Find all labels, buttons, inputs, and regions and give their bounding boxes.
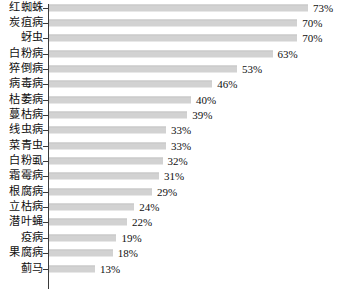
bar-value-label: 13% [100, 263, 120, 274]
bar [49, 35, 297, 42]
bar-and-value: 70% [49, 20, 323, 27]
bar-row: 蓟马13% [0, 261, 353, 276]
category-label: 白粉虱 [0, 155, 43, 167]
bar-row: 果腐病18% [0, 246, 353, 261]
axis-tick [43, 238, 48, 239]
bar-value-label: 22% [132, 217, 152, 228]
category-label: 蚜虫 [0, 33, 43, 45]
axis-tick [43, 38, 48, 39]
category-label: 炭疽病 [0, 17, 43, 29]
bar-and-value: 32% [49, 158, 188, 165]
category-label: 蓟马 [0, 263, 43, 275]
bar-chart: 红蜘蛛73%炭疽病70%蚜虫70%白粉病63%猝倒病53%病毒病46%枯萎病40… [0, 0, 353, 292]
bar-and-value: 29% [49, 188, 177, 195]
bar [49, 173, 159, 180]
bar-row: 枯萎病40% [0, 92, 353, 107]
axis-tick [43, 176, 48, 177]
bar-and-value: 18% [49, 250, 138, 257]
category-label: 果腐病 [0, 247, 43, 259]
bar-and-value: 13% [49, 265, 120, 272]
axis-tick [43, 100, 48, 101]
axis-tick [43, 84, 48, 85]
bar-value-label: 40% [196, 94, 216, 105]
bar-value-label: 19% [121, 232, 141, 243]
bar-row: 线虫病33% [0, 123, 353, 138]
axis-tick [43, 253, 48, 254]
bar [49, 204, 134, 211]
bar-row: 根腐病29% [0, 184, 353, 199]
bar-value-label: 33% [171, 125, 191, 136]
bar-row: 猝倒病53% [0, 61, 353, 76]
category-label: 潜叶蝇 [0, 217, 43, 229]
bar-row: 蔓枯病39% [0, 107, 353, 122]
bar-and-value: 53% [49, 66, 262, 73]
bar [49, 81, 212, 88]
bar-value-label: 46% [217, 79, 237, 90]
bar-and-value: 70% [49, 35, 323, 42]
bar [49, 265, 95, 272]
axis-tick [43, 192, 48, 193]
axis-tick [43, 69, 48, 70]
bar [49, 66, 237, 73]
bar [49, 20, 297, 27]
bar [49, 4, 308, 11]
bar-value-label: 18% [118, 248, 138, 259]
bar-value-label: 33% [171, 140, 191, 151]
category-label: 线虫病 [0, 125, 43, 137]
category-label: 菜青虫 [0, 140, 43, 152]
bar-and-value: 39% [49, 112, 213, 119]
bar [49, 142, 166, 149]
bar [49, 96, 191, 103]
bar-and-value: 33% [49, 142, 191, 149]
bar-value-label: 73% [313, 2, 333, 13]
bar-and-value: 73% [49, 4, 333, 11]
bar-value-label: 31% [164, 171, 184, 182]
bar-row: 蚜虫70% [0, 31, 353, 46]
bar [49, 127, 166, 134]
bar-row: 病毒病46% [0, 77, 353, 92]
category-label: 立枯病 [0, 201, 43, 213]
bar-and-value: 24% [49, 204, 159, 211]
bar-value-label: 32% [168, 156, 188, 167]
axis-tick [43, 130, 48, 131]
bar-row: 白粉病63% [0, 46, 353, 61]
bar [49, 219, 127, 226]
category-label: 枯萎病 [0, 94, 43, 106]
axis-tick [43, 146, 48, 147]
bar-value-label: 63% [278, 48, 298, 59]
bar-value-label: 70% [302, 33, 322, 44]
category-label: 蔓枯病 [0, 109, 43, 121]
bar [49, 112, 187, 119]
axis-tick [43, 115, 48, 116]
bar-row: 疫病19% [0, 230, 353, 245]
category-label: 猝倒病 [0, 63, 43, 75]
bar-and-value: 22% [49, 219, 152, 226]
bar [49, 188, 152, 195]
category-label: 霜霉病 [0, 171, 43, 183]
category-label: 白粉病 [0, 48, 43, 60]
category-label: 红蜘蛛 [0, 2, 43, 14]
bar [49, 250, 113, 257]
bar-and-value: 31% [49, 173, 184, 180]
bar-value-label: 24% [139, 202, 159, 213]
bar-value-label: 39% [192, 110, 212, 121]
axis-tick [43, 54, 48, 55]
axis-tick [43, 161, 48, 162]
bar-and-value: 40% [49, 96, 216, 103]
axis-tick [43, 8, 48, 9]
axis-tick [43, 222, 48, 223]
category-label: 根腐病 [0, 186, 43, 198]
bar-value-label: 53% [242, 64, 262, 75]
category-label: 病毒病 [0, 79, 43, 91]
bar-and-value: 63% [49, 50, 298, 57]
bar-row: 菜青虫33% [0, 138, 353, 153]
category-label: 疫病 [0, 232, 43, 244]
bar-row: 白粉虱32% [0, 153, 353, 168]
bar-value-label: 70% [302, 18, 322, 29]
bar-rows: 红蜘蛛73%炭疽病70%蚜虫70%白粉病63%猝倒病53%病毒病46%枯萎病40… [0, 0, 353, 276]
bar-and-value: 46% [49, 81, 237, 88]
bar [49, 50, 273, 57]
bar-row: 炭疽病70% [0, 15, 353, 30]
bar-and-value: 19% [49, 234, 142, 241]
bar-row: 红蜘蛛73% [0, 0, 353, 15]
